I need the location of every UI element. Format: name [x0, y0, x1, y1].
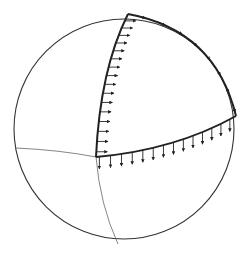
equator-back-line [16, 148, 96, 157]
sphere-svg [0, 0, 249, 254]
arrow-icon [190, 40, 197, 46]
equator-edge [96, 116, 236, 157]
sphere-diagram [0, 0, 249, 254]
arrow-icon [215, 67, 220, 74]
sphere-outline [14, 19, 234, 239]
right-arc-edge [128, 14, 236, 116]
meridian-lower-line [96, 157, 118, 244]
arrow-icon [204, 53, 210, 60]
